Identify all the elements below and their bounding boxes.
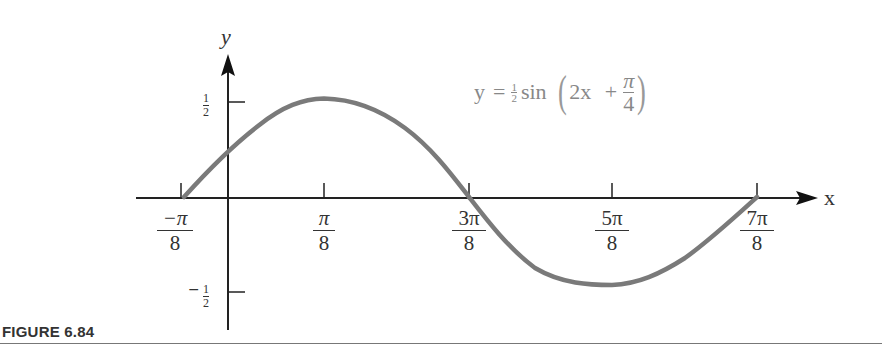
figure-caption: FIGURE 6.84 [2, 323, 94, 340]
bottom-rule [0, 343, 882, 344]
x-tick-num: 3π [458, 207, 479, 229]
x-tick-den: 8 [607, 232, 618, 254]
x-tick-num: −π [163, 207, 188, 229]
sine-curve [184, 99, 757, 286]
equation-label: y = 1 2 sin ( 2x + π 4 ) [474, 70, 649, 114]
x-tick-label-pi-8: π 8 [313, 207, 335, 254]
x-tick-label-3pi-8: 3π 8 [452, 207, 486, 254]
eq-equals: = [493, 79, 505, 105]
x-axis-label: x [824, 185, 835, 211]
eq-coef-num: 1 [511, 82, 517, 92]
eq-close-paren: ) [637, 70, 646, 114]
x-tick-den: 8 [752, 232, 763, 254]
x-tick-label-5pi-8: 5π 8 [595, 207, 629, 254]
x-tick-num: 5π [601, 207, 622, 229]
x-tick-den: 8 [319, 232, 330, 254]
eq-func: sin [521, 79, 547, 105]
eq-frac-num: π [623, 71, 634, 91]
y-tick-sign: − [188, 281, 200, 297]
x-tick-label-7pi-8: 7π 8 [740, 207, 774, 254]
y-tick-den: 2 [203, 298, 209, 309]
eq-coefficient: 1 2 [511, 82, 517, 103]
y-tick-label-neg-half: 1 2 [203, 284, 209, 309]
x-tick-den: 8 [170, 232, 181, 254]
chart-canvas [0, 0, 882, 359]
y-axis-label: y [221, 24, 231, 50]
eq-frac-den: 4 [623, 94, 634, 114]
eq-coef-den: 2 [511, 93, 517, 103]
y-tick-num: 1 [203, 284, 209, 295]
x-tick-label-neg-pi-8: −π 8 [157, 207, 193, 254]
eq-fraction: π 4 [623, 71, 634, 114]
y-tick-label-half: 1 2 [203, 93, 209, 118]
x-tick-num: π [319, 207, 330, 229]
y-tick-num: 1 [203, 93, 209, 104]
x-tick-den: 8 [464, 232, 475, 254]
eq-open-paren: ( [558, 70, 567, 114]
eq-inner: 2x + [569, 79, 617, 105]
eq-lhs: y [474, 79, 485, 105]
x-tick-num: 7π [746, 207, 767, 229]
y-tick-den: 2 [203, 107, 209, 118]
